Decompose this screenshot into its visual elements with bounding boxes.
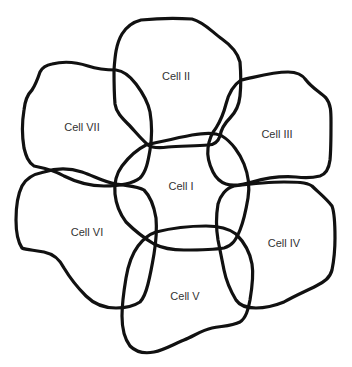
cell-iii-label: Cell III xyxy=(261,129,292,140)
cell-vi-label: Cell VI xyxy=(71,227,103,238)
cell-ii-outline xyxy=(114,18,241,147)
cell-vii-label: Cell VII xyxy=(64,122,99,133)
cell-iv-label: Cell IV xyxy=(268,238,300,249)
cell-i-label: Cell I xyxy=(168,181,193,192)
cell-ii-label: Cell II xyxy=(162,71,190,82)
cell-v-label: Cell V xyxy=(170,291,199,302)
cell-i-outline xyxy=(115,133,249,250)
cell-vi-outline xyxy=(16,169,156,308)
